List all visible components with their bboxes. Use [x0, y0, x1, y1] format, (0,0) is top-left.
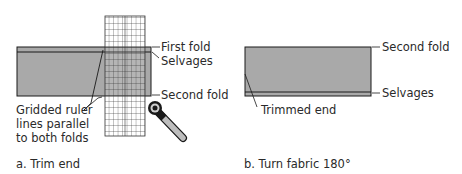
label-ruler-line2: lines parallel: [16, 118, 89, 131]
label-selvages-b: Selvages: [382, 87, 434, 100]
rotary-cutter-icon: [148, 101, 183, 138]
panel-b-leaders: [372, 47, 380, 93]
label-second-fold-b: Second fold: [382, 41, 450, 54]
label-ruler-line3: to both folds: [16, 132, 89, 145]
label-ruler-line1: Gridded ruler: [16, 104, 92, 117]
gridded-ruler: [105, 16, 145, 136]
caption-b: b. Turn fabric 180°: [244, 157, 351, 171]
label-trimmed-end: Trimmed end: [261, 104, 336, 117]
label-first-fold: First fold: [161, 41, 210, 54]
label-second-fold-a: Second fold: [161, 89, 229, 102]
caption-a: a. Trim end: [16, 157, 80, 171]
label-selvages-a: Selvages: [161, 55, 213, 68]
panel-b-fabric: [245, 47, 371, 107]
